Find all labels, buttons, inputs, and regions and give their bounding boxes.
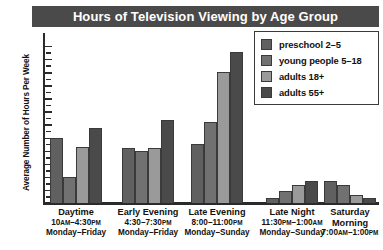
bar [324, 181, 337, 203]
time-meridiem: PM [369, 229, 379, 236]
bar [279, 191, 292, 203]
bar [63, 177, 76, 203]
bar [337, 185, 350, 203]
x-category-time: 7:00AM–1:00PM [305, 228, 383, 239]
bar [230, 52, 243, 203]
bar [217, 72, 230, 203]
x-category-name-line2: Morning [305, 218, 383, 229]
legend-item[interactable]: adults 55+ [261, 84, 373, 100]
legend-item[interactable]: adults 18+ [261, 68, 373, 84]
time-meridiem: AM [60, 219, 70, 226]
legend-label: adults 55+ [279, 87, 324, 98]
time-meridiem: AM [338, 229, 348, 236]
y-axis-title: Average Number of Hours Per Week [22, 43, 31, 203]
bar [191, 144, 204, 203]
legend-swatch-icon [261, 39, 272, 50]
time-meridiem: PM [91, 219, 101, 226]
bar [266, 198, 279, 203]
bar [363, 198, 376, 203]
legend-label: young people 5–18 [279, 55, 362, 66]
bar [89, 128, 102, 203]
time-meridiem: PM [282, 219, 292, 226]
bar [305, 181, 318, 203]
time-meridiem: PM [162, 219, 172, 226]
legend-item[interactable]: preschool 2–5 [261, 36, 373, 52]
bar [76, 147, 89, 203]
time-meridiem: PM [233, 219, 243, 226]
chart-legend: preschool 2–5young people 5–18adults 18+… [254, 31, 379, 105]
bar [292, 185, 305, 203]
bar [350, 195, 363, 203]
legend-swatch-icon [261, 87, 272, 98]
bar-group [122, 33, 174, 203]
x-category-label: SaturdayMorning7:00AM–1:00PM [305, 207, 383, 239]
legend-label: preschool 2–5 [279, 39, 341, 50]
bar [135, 151, 148, 203]
bar [204, 122, 217, 203]
legend-swatch-icon [261, 71, 272, 82]
bar-group [50, 33, 102, 203]
bar [161, 120, 174, 203]
x-category-name: Saturday [305, 207, 383, 218]
legend-swatch-icon [261, 55, 272, 66]
legend-item[interactable]: young people 5–18 [261, 52, 373, 68]
bar [122, 148, 135, 203]
legend-label: adults 18+ [279, 71, 324, 82]
bar-group [191, 33, 243, 203]
bar [50, 138, 63, 204]
tv-viewing-bar-chart: Hours of Television Viewing by Age Group… [0, 0, 383, 250]
bar [148, 148, 161, 203]
chart-title: Hours of Television Viewing by Age Group [32, 6, 379, 27]
